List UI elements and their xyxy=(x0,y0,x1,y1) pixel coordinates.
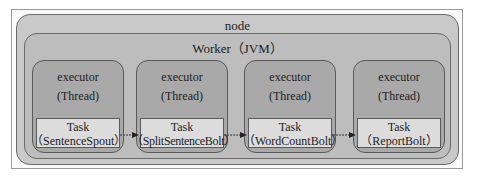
arrow-icon xyxy=(120,131,139,139)
executor-label: executor (Thread) xyxy=(33,68,123,106)
executor-2: executor (Thread) Task （SplitSentenceBol… xyxy=(136,60,228,153)
task-label: Task xyxy=(249,120,331,134)
task-sentence-spout: Task （SentenceSpout） xyxy=(36,118,120,148)
executor-title: executor xyxy=(33,68,123,87)
executor-4: executor (Thread) Task （ReportBolt） xyxy=(353,60,445,153)
task-name: （WordCountBolt） xyxy=(243,134,337,148)
executor-label: executor (Thread) xyxy=(137,68,227,106)
executor-title: executor xyxy=(137,68,227,87)
task-label: Task xyxy=(358,120,440,134)
executor-subtitle: (Thread) xyxy=(245,87,335,106)
executor-subtitle: (Thread) xyxy=(354,87,444,106)
executor-label: executor (Thread) xyxy=(354,68,444,106)
executor-1: executor (Thread) Task （SentenceSpout） xyxy=(32,60,124,153)
executor-subtitle: (Thread) xyxy=(33,87,123,106)
arrow-icon xyxy=(333,131,356,139)
executor-title: executor xyxy=(354,68,444,87)
task-label: Task xyxy=(37,120,119,134)
executor-label: executor (Thread) xyxy=(245,68,335,106)
arrow-icon xyxy=(224,131,247,139)
worker-label: Worker（JVM） xyxy=(25,38,450,57)
executor-subtitle: (Thread) xyxy=(137,87,227,106)
task-report-bolt: Task （ReportBolt） xyxy=(357,118,441,148)
executor-title: executor xyxy=(245,68,335,87)
node-label: node xyxy=(17,18,458,34)
task-name: （ReportBolt） xyxy=(358,134,440,148)
task-name: （SentenceSpout） xyxy=(31,134,125,148)
task-label: Task xyxy=(141,120,223,134)
executor-3: executor (Thread) Task （WordCountBolt） xyxy=(244,60,336,153)
task-name: （SplitSentenceBolt） xyxy=(131,134,233,148)
task-word-count-bolt: Task （WordCountBolt） xyxy=(248,118,332,148)
task-split-sentence-bolt: Task （SplitSentenceBolt） xyxy=(140,118,224,148)
